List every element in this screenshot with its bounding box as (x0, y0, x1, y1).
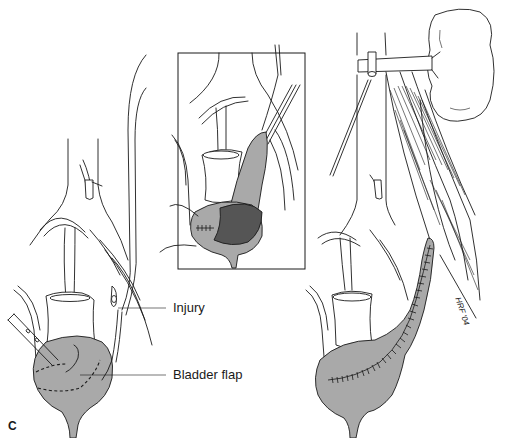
right-panel (306, 9, 494, 438)
injury-label: Injury (173, 301, 205, 314)
surgical-illustration: Injury Bladder flap C HRF '04 (0, 0, 507, 438)
illustration-svg (0, 0, 507, 438)
left-panel (8, 55, 166, 438)
bladder-flap-label: Bladder flap (173, 368, 242, 381)
inset-panel (160, 45, 305, 269)
panel-letter: C (8, 419, 17, 433)
kidney (427, 9, 494, 121)
tubularized-flap (315, 238, 434, 438)
